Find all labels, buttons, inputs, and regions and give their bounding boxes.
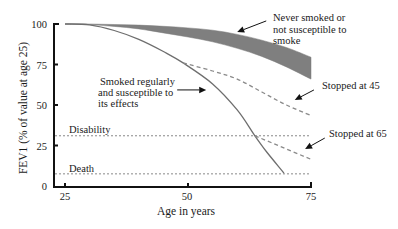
- annotation-stopped-at-45: Stopped at 45: [295, 80, 380, 100]
- fev1-decline-chart: 100 75 50 25 0 25 50 75 Age in years FEV…: [0, 0, 398, 229]
- x-axis-title: Age in years: [157, 205, 216, 218]
- annotation-line: Stopped at 65: [329, 128, 387, 139]
- x-tick-label-75: 75: [306, 191, 317, 202]
- annotation-line: its effects: [98, 98, 138, 109]
- y-tick-label-100: 100: [31, 19, 47, 30]
- y-axis: 100 75 50 25 0: [31, 19, 59, 192]
- annotation-stopped-at-65: Stopped at 65: [305, 128, 387, 149]
- y-axis-title: FEV1 (% of value at age 25): [17, 42, 30, 174]
- annotation-line: and susceptible to: [98, 87, 173, 98]
- death-label: Death: [69, 163, 95, 174]
- x-axis: 25 50 75: [53, 182, 316, 202]
- annotation-line: Smoked regularly: [100, 76, 176, 87]
- disability-label: Disability: [69, 124, 111, 135]
- x-tick-label-50: 50: [182, 191, 193, 202]
- y-tick-label-0: 0: [42, 181, 47, 192]
- y-tick-label-75: 75: [37, 60, 48, 71]
- annotation-line: not susceptible to: [273, 24, 347, 35]
- annotation-smoked-regularly: Smoked regularly and susceptible to its …: [98, 76, 206, 109]
- arrow-icon: [295, 90, 314, 100]
- arrow-icon: [305, 138, 325, 149]
- arrow-icon: [177, 87, 206, 93]
- annotation-line: Stopped at 45: [322, 80, 380, 91]
- annotation-line: smoke: [273, 35, 301, 46]
- y-tick-label-25: 25: [37, 141, 48, 152]
- arrow-icon: [237, 21, 266, 33]
- y-tick-label-50: 50: [37, 100, 48, 111]
- annotation-line: Never smoked or: [273, 12, 346, 23]
- x-tick-label-25: 25: [60, 191, 71, 202]
